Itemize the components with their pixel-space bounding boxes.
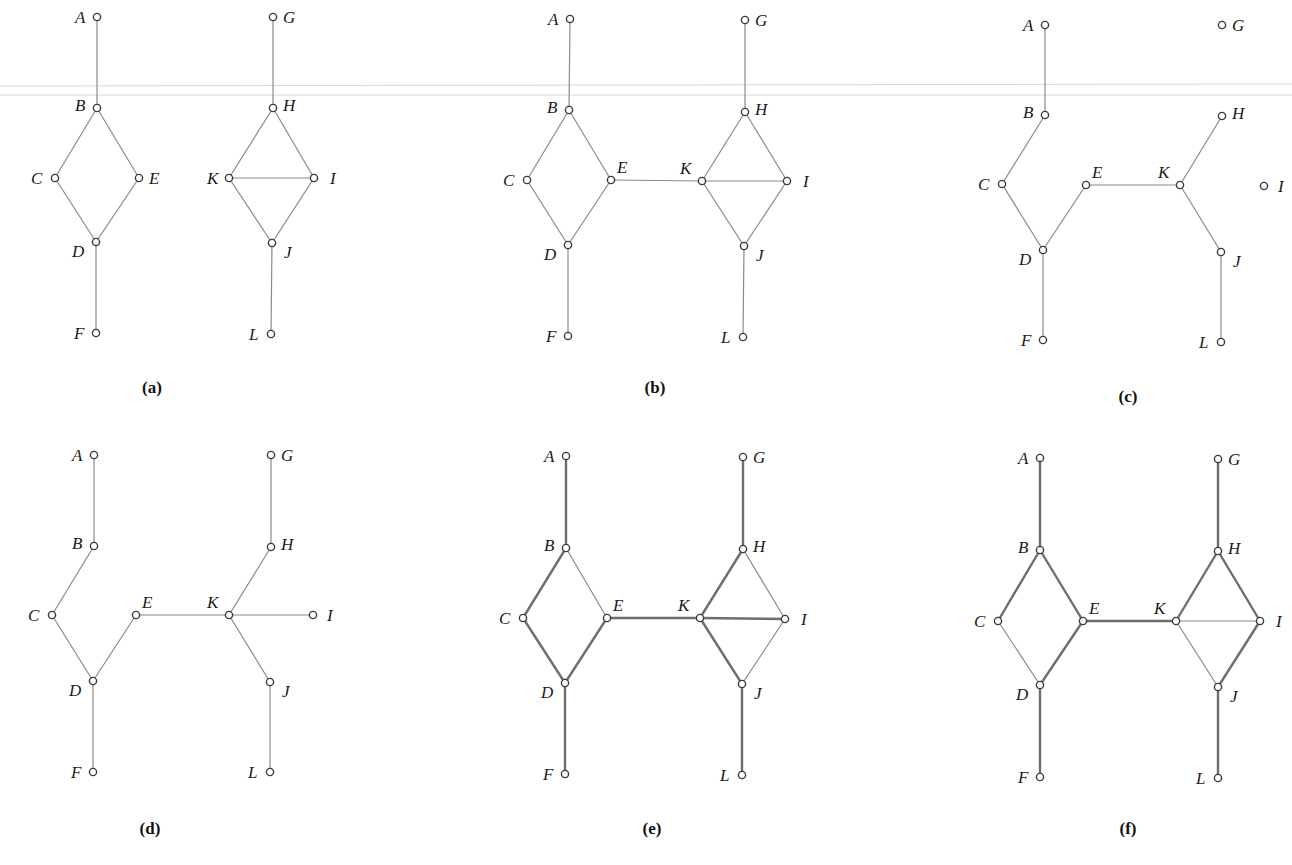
- figure-canvas: ABCEDFGHKIJL(a) ABCEDFGHKIJL(b) ABCEDFGH…: [0, 0, 1292, 865]
- node-label-G: G: [1232, 16, 1244, 35]
- node-label-K: K: [206, 169, 220, 188]
- node-I: [1260, 182, 1267, 189]
- node-label-J: J: [1230, 687, 1239, 706]
- edge-C-D: [527, 180, 568, 245]
- node-I: [783, 177, 790, 184]
- edges: [1002, 25, 1222, 342]
- node-K: [696, 614, 703, 621]
- edge-C-D: [55, 178, 96, 242]
- node-label-G: G: [1228, 450, 1240, 469]
- scan-line-artifacts: [0, 84, 1292, 95]
- node-E: [603, 614, 610, 621]
- edge-K-J: [1176, 621, 1218, 687]
- node-J: [268, 239, 275, 246]
- node-label-L: L: [1198, 333, 1208, 352]
- nodes: ABCEDFGHKIJL: [978, 16, 1285, 352]
- node-F: [561, 770, 568, 777]
- node-label-L: L: [719, 766, 729, 785]
- node-label-D: D: [540, 683, 554, 702]
- node-L: [267, 330, 274, 337]
- node-K: [225, 611, 232, 618]
- node-label-C: C: [31, 169, 43, 188]
- panel-b: ABCEDFGHKIJL(b): [503, 10, 810, 397]
- node-H: [741, 108, 748, 115]
- panel-caption: (d): [140, 819, 161, 838]
- node-D: [561, 679, 568, 686]
- node-G: [267, 451, 274, 458]
- node-label-J: J: [756, 246, 765, 265]
- node-L: [266, 768, 273, 775]
- node-label-K: K: [1153, 599, 1167, 618]
- panel-c: ABCEDFGHKIJL(c): [978, 16, 1285, 406]
- edge-B-E: [566, 548, 607, 618]
- edges: [998, 458, 1260, 778]
- nodes: ABCEDFGHKIJL: [974, 449, 1283, 788]
- node-C: [994, 617, 1001, 624]
- edge-B-E: [569, 110, 611, 180]
- edge-H-K: [229, 547, 271, 615]
- node-label-A: A: [1022, 16, 1034, 35]
- edge-B-C: [527, 110, 569, 180]
- node-label-E: E: [148, 169, 160, 188]
- edge-B-E: [97, 108, 139, 178]
- edge-K-J: [1180, 185, 1221, 252]
- node-label-F: F: [70, 763, 82, 782]
- node-label-D: D: [71, 242, 85, 261]
- node-label-H: H: [280, 535, 295, 554]
- panel-a: ABCEDFGHKIJL(a): [31, 8, 337, 397]
- edge-H-I: [1218, 551, 1260, 621]
- node-label-J: J: [284, 243, 293, 262]
- edge-J-L: [271, 243, 272, 334]
- node-E: [135, 174, 142, 181]
- node-label-E: E: [141, 593, 153, 612]
- edge-H-I: [745, 112, 787, 181]
- scan-line: [0, 84, 1292, 86]
- node-label-I: I: [800, 610, 808, 629]
- node-label-H: H: [1227, 539, 1242, 558]
- node-label-C: C: [974, 612, 986, 631]
- node-label-E: E: [616, 158, 628, 177]
- edge-E-D: [1040, 621, 1083, 685]
- node-A: [93, 13, 100, 20]
- node-G: [741, 16, 748, 23]
- node-label-E: E: [612, 596, 624, 615]
- node-A: [90, 451, 97, 458]
- node-E: [1079, 617, 1086, 624]
- node-label-A: A: [71, 446, 83, 465]
- node-label-L: L: [247, 763, 257, 782]
- node-G: [1214, 455, 1221, 462]
- node-F: [92, 329, 99, 336]
- node-J: [738, 680, 745, 687]
- edge-C-D: [523, 618, 565, 683]
- node-F: [1036, 773, 1043, 780]
- node-label-L: L: [1195, 769, 1205, 788]
- node-E: [607, 176, 614, 183]
- edge-B-C: [1002, 115, 1045, 184]
- node-label-D: D: [1018, 250, 1032, 269]
- node-H: [269, 104, 276, 111]
- edge-I-J: [272, 178, 314, 243]
- edge-H-I: [273, 108, 314, 178]
- node-A: [1041, 21, 1048, 28]
- edge-C-D: [998, 621, 1040, 685]
- edge-H-K: [1180, 116, 1222, 185]
- node-label-K: K: [206, 593, 220, 612]
- node-B: [1041, 111, 1048, 118]
- node-label-J: J: [1233, 252, 1242, 271]
- nodes: ABCEDFGHKIJL: [499, 447, 808, 785]
- node-label-F: F: [545, 327, 557, 346]
- node-F: [564, 332, 571, 339]
- node-H: [739, 545, 746, 552]
- node-label-G: G: [283, 8, 295, 27]
- edge-H-K: [702, 112, 745, 181]
- edge-K-J: [700, 618, 742, 684]
- node-label-H: H: [752, 537, 767, 556]
- node-G: [739, 453, 746, 460]
- node-label-C: C: [978, 175, 990, 194]
- node-A: [1036, 454, 1043, 461]
- node-label-F: F: [1017, 768, 1029, 787]
- panel-e: ABCEDFGHKIJL(e): [499, 447, 808, 838]
- panel-caption: (c): [1119, 387, 1138, 406]
- node-label-B: B: [1023, 103, 1034, 122]
- node-B: [565, 106, 572, 113]
